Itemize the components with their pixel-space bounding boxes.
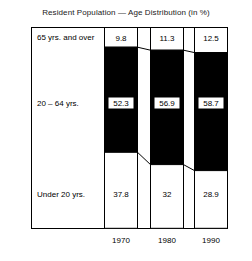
row-label-65-and-over: 65 yrs. and over xyxy=(37,33,95,42)
row-label-20-64: 20 – 64 yrs. xyxy=(37,99,79,108)
value-label-1970-20-64: 52.3 xyxy=(113,99,129,108)
value-label-1990-under-20: 28.9 xyxy=(203,190,219,199)
row-label-under-20: Under 20 yrs. xyxy=(37,190,85,199)
value-label-1970-under-20: 37.8 xyxy=(113,190,129,199)
x-tick-label-1980: 1980 xyxy=(158,236,176,245)
value-label-1980-65-and-over: 11.3 xyxy=(160,34,176,43)
value-label-1990-65-and-over: 12.5 xyxy=(203,34,219,43)
value-label-1970-65-and-over: 9.8 xyxy=(115,34,127,43)
x-tick-label-1990: 1990 xyxy=(202,236,220,245)
value-label-1990-20-64: 58.7 xyxy=(203,99,219,108)
value-label-1980-under-20: 32 xyxy=(163,190,172,199)
bar-segment-1990-20-64 xyxy=(195,53,228,171)
chart-canvas: 65 yrs. and over 20 – 64 yrs. Under 20 y… xyxy=(0,0,252,261)
value-label-1980-20-64: 56.9 xyxy=(159,99,175,108)
chart-container: Resident Population — Age Distribution (… xyxy=(0,0,252,261)
bar-segment-1990-under-20 xyxy=(195,171,228,229)
x-tick-label-1970: 1970 xyxy=(112,236,130,245)
